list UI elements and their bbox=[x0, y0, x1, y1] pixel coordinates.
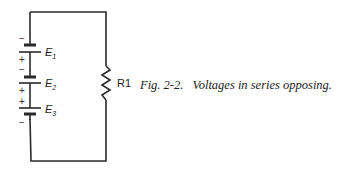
e1-top-sign: − bbox=[19, 33, 25, 44]
e3-bottom-sign: − bbox=[19, 117, 25, 128]
wire-top bbox=[30, 12, 106, 66]
figure-caption-text: Voltages in series opposing. bbox=[192, 78, 332, 92]
e1-label: E1 bbox=[45, 46, 56, 60]
e2-label: E2 bbox=[45, 77, 56, 91]
figure-caption: Fig. 2-2.Voltages in series opposing. bbox=[140, 78, 332, 93]
e2-bottom-sign: + bbox=[19, 85, 25, 96]
resistor-r1: R1 bbox=[102, 66, 131, 100]
figure-number: Fig. 2-2. bbox=[140, 78, 183, 92]
e3-label: E3 bbox=[45, 103, 56, 117]
r1-label: R1 bbox=[117, 77, 131, 89]
battery-e1: − + E1 bbox=[19, 33, 56, 65]
wire-right-bottom bbox=[30, 100, 106, 161]
e3-top-sign: + bbox=[19, 96, 25, 107]
battery-e3: + − E3 bbox=[19, 96, 56, 128]
e2-top-sign: − bbox=[19, 64, 25, 75]
battery-e2: − + E2 bbox=[19, 64, 56, 96]
